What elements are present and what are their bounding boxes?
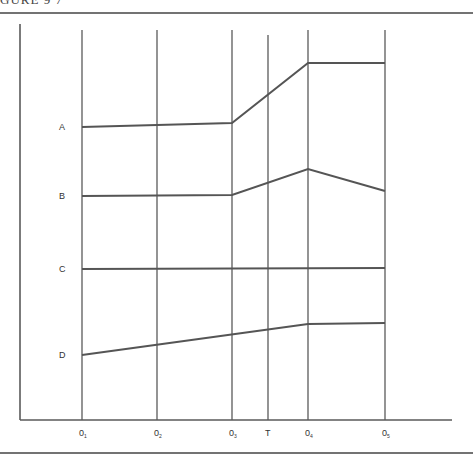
series-line-c xyxy=(82,268,385,269)
series-label-d: D xyxy=(59,350,66,360)
series-line-d xyxy=(82,323,385,355)
series-lines xyxy=(82,63,385,355)
series-labels: ABCD xyxy=(59,122,66,360)
x-tick-label-o3: 03 xyxy=(229,428,237,439)
series-label-c: C xyxy=(59,264,66,274)
x-tick-label-t: T xyxy=(265,428,271,438)
x-tick-labels: 010203T0405 xyxy=(79,428,390,439)
x-tick-label-o4: 04 xyxy=(305,428,313,439)
series-line-a xyxy=(82,63,385,127)
vertical-gridlines xyxy=(82,30,385,420)
x-tick-label-o2: 02 xyxy=(154,428,162,439)
series-line-b xyxy=(82,169,385,196)
series-label-a: A xyxy=(59,122,65,132)
x-tick-label-o1: 01 xyxy=(79,428,87,439)
x-tick-label-o5: 05 xyxy=(382,428,390,439)
series-label-b: B xyxy=(59,191,65,201)
chart-canvas: ABCD 010203T0405 xyxy=(0,0,473,455)
